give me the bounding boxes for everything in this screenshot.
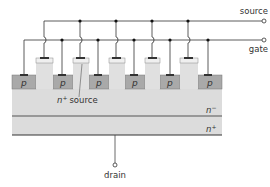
drain-label: drain bbox=[104, 170, 126, 180]
svg-text:p: p bbox=[59, 78, 66, 88]
drain-terminal[interactable] bbox=[113, 163, 117, 167]
substrate-slab bbox=[12, 88, 222, 135]
source-terminal[interactable] bbox=[262, 19, 266, 23]
svg-text:p: p bbox=[20, 78, 27, 88]
svg-text:p: p bbox=[206, 78, 213, 88]
svg-text:p: p bbox=[166, 78, 173, 88]
svg-text:p: p bbox=[131, 78, 138, 88]
svg-text:p: p bbox=[95, 78, 102, 88]
source-bus bbox=[40, 21, 262, 58]
source-label: source bbox=[240, 6, 268, 16]
gate-bus bbox=[20, 40, 262, 75]
gate-label: gate bbox=[249, 44, 268, 54]
power-mosfet-diagram: p p p p p p n+source n− n+ source gate d… bbox=[0, 0, 270, 187]
gate-terminal[interactable] bbox=[262, 38, 266, 42]
